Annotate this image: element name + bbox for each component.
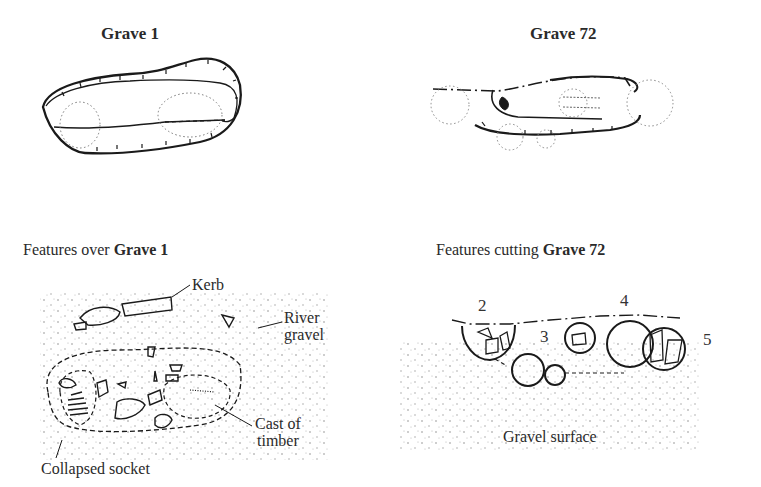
features-grave-1 [40,285,340,460]
features-grave-72 [400,315,700,450]
grave-72-plan [431,77,673,150]
drawings [0,0,761,487]
grave-1-plan [43,59,241,154]
